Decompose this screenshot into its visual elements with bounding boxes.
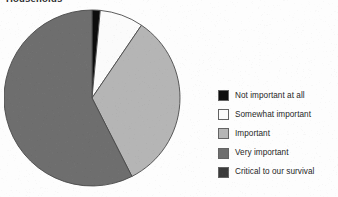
legend-item-very-important: Very important — [218, 144, 338, 163]
chart-legend: Not important at all Somewhat important … — [218, 86, 338, 182]
legend-swatch-somewhat-important — [218, 109, 229, 120]
legend-item-important: Important — [218, 124, 338, 143]
pie-chart-plot-area — [4, 9, 182, 189]
legend-label-important: Important — [235, 129, 270, 139]
legend-swatch-critical-to-our-survival — [218, 167, 229, 178]
legend-label-not-important-at-all: Not important at all — [235, 91, 305, 101]
legend-item-critical-to-our-survival: Critical to our survival — [218, 163, 338, 182]
legend-label-very-important: Very important — [235, 148, 289, 158]
pie-slice-group — [4, 10, 180, 186]
legend-label-critical-to-our-survival: Critical to our survival — [235, 167, 314, 177]
legend-item-somewhat-important: Somewhat important — [218, 105, 338, 124]
legend-swatch-not-important-at-all — [218, 90, 229, 101]
pie-chart-figure: Households Not important at all Somewhat… — [0, 0, 338, 197]
legend-swatch-important — [218, 128, 229, 139]
chart-title-clipped: Households — [6, 0, 146, 7]
legend-label-somewhat-important: Somewhat important — [235, 110, 311, 120]
pie-chart-svg — [4, 9, 182, 189]
legend-item-not-important-at-all: Not important at all — [218, 86, 338, 105]
page-title: Households — [6, 0, 146, 5]
legend-swatch-very-important — [218, 148, 229, 159]
